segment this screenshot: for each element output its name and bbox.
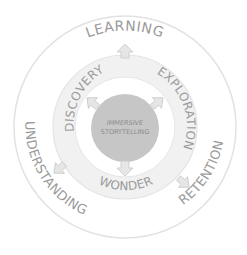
immersive-storytelling-diagram: IMMERSIVE STORYTELLING LEARNING UNDERSTA…	[0, 0, 247, 255]
center-label-line2: STORYTELLING	[101, 128, 149, 136]
diagram-canvas: IMMERSIVE STORYTELLING LEARNING UNDERSTA…	[0, 0, 247, 255]
center-label-line1: IMMERSIVE	[107, 119, 144, 127]
